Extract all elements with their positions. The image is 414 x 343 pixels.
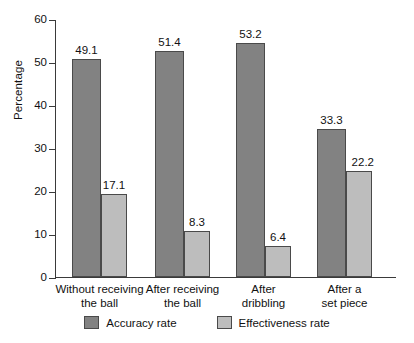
plot-area: 6050403020100 49.117.151.48.353.26.433.3…	[55, 20, 396, 278]
y-axis-title: Percentage	[12, 35, 24, 145]
bar-value-label: 8.3	[189, 216, 205, 228]
figure-caption	[0, 335, 414, 343]
bar-effectiveness: 6.4	[265, 246, 291, 277]
bar-effectiveness: 17.1	[101, 194, 127, 277]
bar-value-label: 6.4	[270, 231, 286, 243]
legend-label-accuracy: Accuracy rate	[106, 317, 176, 329]
y-tick-mark	[49, 149, 55, 150]
chart-legend: Accuracy rate Effectiveness rate	[0, 316, 414, 329]
bar-group: 53.26.4	[236, 19, 291, 277]
y-tick-mark	[49, 235, 55, 236]
bar-value-label: 22.2	[352, 156, 374, 168]
y-tick-mark	[49, 192, 55, 193]
bar-value-label: 49.1	[75, 44, 97, 56]
y-tick-label: 30	[7, 143, 47, 155]
y-tick-label: 20	[7, 186, 47, 198]
bar-value-label: 51.4	[158, 36, 180, 48]
bar-group: 51.48.3	[155, 19, 210, 277]
bar-chart-figure: Percentage 6050403020100 49.117.151.48.3…	[0, 0, 414, 343]
bar-accuracy: 51.4	[155, 51, 184, 277]
bar-accuracy: 53.2	[236, 43, 265, 277]
bar-value-label: 33.3	[320, 114, 342, 126]
x-category-label-line: set piece	[295, 297, 394, 311]
y-tick-mark	[49, 63, 55, 64]
y-tick-label: 0	[7, 272, 47, 284]
legend-swatch-icon-effectiveness	[217, 316, 232, 329]
bar-group: 33.322.2	[317, 19, 372, 277]
legend-item-accuracy-rate: Accuracy rate	[84, 316, 176, 329]
bar-accuracy: 33.3	[317, 129, 346, 277]
y-tick-label: 40	[7, 100, 47, 112]
legend-item-effectiveness-rate: Effectiveness rate	[217, 316, 330, 329]
y-tick-mark	[49, 20, 55, 21]
x-category-label-line: After a	[295, 283, 394, 297]
bar-value-label: 17.1	[103, 179, 125, 191]
bar-group: 49.117.1	[72, 19, 127, 277]
x-category-label: After aset piece	[295, 283, 394, 310]
y-axis-line	[55, 20, 56, 279]
y-tick-mark	[49, 106, 55, 107]
y-tick-mark	[49, 278, 55, 279]
bar-effectiveness: 8.3	[184, 231, 210, 277]
bar-value-label: 53.2	[239, 28, 261, 40]
y-tick-label: 10	[7, 229, 47, 241]
y-tick-label: 50	[7, 57, 47, 69]
x-axis-line	[55, 277, 396, 278]
bar-accuracy: 49.1	[72, 59, 101, 277]
legend-label-effectiveness: Effectiveness rate	[239, 317, 330, 329]
legend-swatch-icon-accuracy	[84, 316, 99, 329]
bar-effectiveness: 22.2	[346, 171, 372, 277]
y-tick-label: 60	[7, 14, 47, 26]
